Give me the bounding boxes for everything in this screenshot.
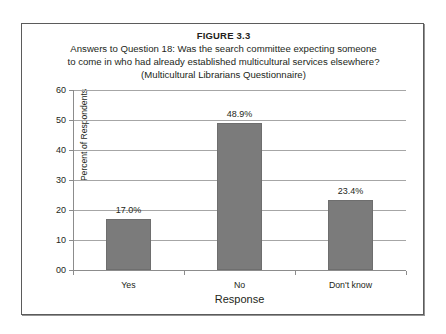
bar xyxy=(106,219,151,270)
x-axis-category-label: Yes xyxy=(79,280,179,290)
x-axis-tick xyxy=(184,271,185,275)
y-axis-tick-label: 00 xyxy=(26,266,66,275)
bar-chart: Percent of Respondents 00102030405060 17… xyxy=(22,24,425,316)
y-axis-title: Percent of Respondents xyxy=(79,80,89,190)
x-axis-title: Response xyxy=(73,293,406,305)
plot-area: Percent of Respondents 00102030405060 17… xyxy=(73,90,406,270)
y-axis-tick-label: 60 xyxy=(26,86,66,95)
bar-data-label: 17.0% xyxy=(89,205,169,215)
bar-data-label: 48.9% xyxy=(200,109,280,119)
gridline xyxy=(73,120,406,121)
x-axis-tick xyxy=(295,271,296,275)
y-axis-tick-label: 50 xyxy=(26,116,66,125)
y-axis-tick-label: 20 xyxy=(26,206,66,215)
y-axis-line xyxy=(73,90,74,271)
bar xyxy=(217,123,262,270)
x-axis-line xyxy=(73,270,406,271)
x-axis-tick xyxy=(406,271,407,275)
y-axis-tick-label: 30 xyxy=(26,176,66,185)
gridline xyxy=(73,90,406,91)
figure-frame: FIGURE 3.3 Answers to Question 18: Was t… xyxy=(21,23,424,315)
y-axis-tick-label: 40 xyxy=(26,146,66,155)
x-axis-category-label: No xyxy=(190,280,290,290)
y-axis-tick-label: 10 xyxy=(26,236,66,245)
x-axis-category-label: Don't know xyxy=(301,280,401,290)
bar xyxy=(328,200,373,270)
bar-data-label: 23.4% xyxy=(311,186,391,196)
x-axis-tick xyxy=(73,271,74,275)
